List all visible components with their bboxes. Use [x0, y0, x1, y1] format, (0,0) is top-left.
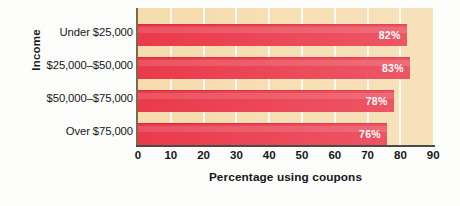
bar-2: 78%	[138, 90, 394, 112]
bar-sheen-3	[138, 126, 387, 132]
bar-3: 76%	[138, 123, 387, 145]
bar-sheen-1	[138, 60, 410, 66]
bar-sheen-0	[138, 27, 407, 33]
bar-0: 82%	[138, 24, 407, 46]
x-tick-30: 30	[221, 149, 251, 161]
category-label-2: $50,000–$75,000	[30, 92, 133, 104]
x-tick-70: 70	[353, 149, 383, 161]
bar-1: 83%	[138, 57, 410, 79]
category-label-0: Under $25,000	[30, 26, 133, 38]
bar-sheen-2	[138, 93, 394, 99]
bar-value-label-0: 82%	[379, 29, 401, 41]
x-axis-tick-labels: 0 10 20 30 40 50 60 70 80 90	[0, 149, 460, 167]
x-tick-60: 60	[320, 149, 350, 161]
x-tick-0: 0	[123, 149, 153, 161]
category-label-3: Over $75,000	[30, 125, 133, 137]
x-tick-10: 10	[156, 149, 186, 161]
x-tick-80: 80	[385, 149, 415, 161]
x-tick-50: 50	[287, 149, 317, 161]
category-label-1: $25,000–$50,000	[30, 59, 133, 71]
bar-value-label-2: 78%	[366, 95, 388, 107]
y-axis-category-labels: Under $25,000 $25,000–$50,000 $50,000–$7…	[30, 15, 133, 145]
x-axis-title: Percentage using coupons	[138, 170, 433, 184]
bar-value-label-3: 76%	[359, 128, 381, 140]
x-tick-40: 40	[254, 149, 284, 161]
x-tick-90: 90	[418, 149, 448, 161]
x-tick-20: 20	[189, 149, 219, 161]
plot-area: 82% 83% 78% 76%	[138, 8, 433, 145]
y-axis-line	[136, 8, 138, 145]
bar-value-label-1: 83%	[382, 62, 404, 74]
bar-chart-figure: Income Under $25,000 $25,000–$50,000 $50…	[0, 0, 460, 206]
x-axis-line	[136, 145, 435, 147]
